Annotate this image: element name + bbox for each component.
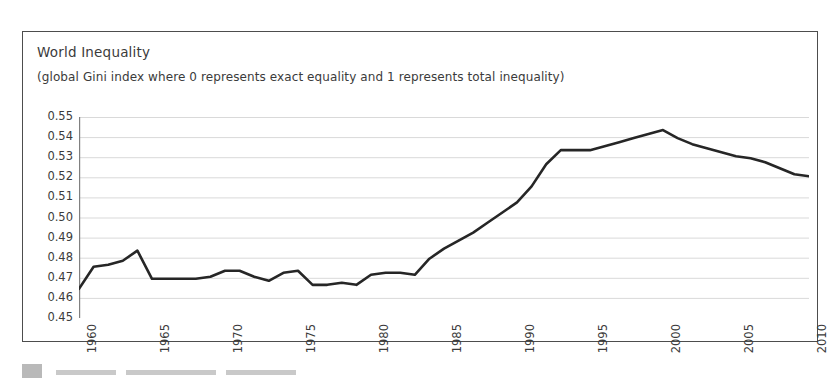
chart-title: World Inequality [37, 44, 150, 60]
y-axis-tick-label: 0.51 [47, 191, 73, 202]
plot-area [79, 117, 809, 318]
y-axis-tick-label: 0.48 [47, 252, 73, 263]
gridlines [79, 118, 809, 319]
x-axis-tick-label: 1975 [304, 324, 318, 353]
x-axis-tick-label: 1985 [450, 324, 464, 353]
y-axis-tick-label: 0.55 [47, 111, 73, 122]
x-axis-tick-label: 1980 [377, 324, 391, 353]
page-bottom-fragment [22, 358, 322, 380]
y-axis-tick-label: 0.54 [47, 131, 73, 142]
chart-frame: World Inequality (global Gini index wher… [22, 31, 818, 342]
x-axis-tick-label: 1970 [231, 324, 245, 353]
fragment-text-line [226, 370, 296, 375]
y-axis-labels: 0.550.540.530.520.510.500.490.480.470.46… [23, 117, 73, 318]
y-axis-tick-label: 0.46 [47, 292, 73, 303]
gini-line [79, 130, 809, 289]
page-root: World Inequality (global Gini index wher… [0, 0, 838, 384]
x-axis-tick-label: 2000 [669, 324, 683, 353]
fragment-text-line [56, 370, 116, 375]
y-axis-tick-label: 0.47 [47, 272, 73, 283]
fragment-swatch [22, 364, 42, 378]
y-axis-tick-label: 0.45 [47, 312, 73, 323]
line-chart-svg [79, 117, 809, 318]
x-axis-tick-label: 1995 [596, 324, 610, 353]
y-axis-tick-label: 0.53 [47, 151, 73, 162]
x-axis-tick-label: 2010 [815, 324, 829, 353]
fragment-text-line [126, 370, 216, 375]
y-axis-tick-label: 0.52 [47, 171, 73, 182]
y-axis-tick-label: 0.50 [47, 212, 73, 223]
chart-subtitle: (global Gini index where 0 represents ex… [37, 70, 565, 84]
x-axis-tick-label: 1965 [158, 324, 172, 353]
y-axis-tick-label: 0.49 [47, 232, 73, 243]
x-axis-tick-label: 1990 [523, 324, 537, 353]
x-axis-tick-label: 1960 [85, 324, 99, 353]
x-axis-tick-label: 2005 [742, 324, 756, 353]
